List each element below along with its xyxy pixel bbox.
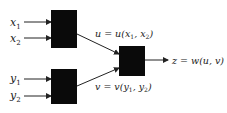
- box-u: [51, 10, 77, 48]
- composite-function-diagram: x1 x2 y1 y2 u = u(x1, x2) v = v(y1, y2) …: [0, 0, 227, 113]
- box-v: [51, 69, 77, 104]
- label-u: u = u(x1, x2): [95, 28, 153, 40]
- input-label-x1: x1: [10, 16, 21, 31]
- input-label-y1: y1: [9, 72, 21, 87]
- input-label-x2: x2: [10, 32, 21, 47]
- box-w: [119, 46, 145, 76]
- label-output: z = w(u, v): [171, 55, 224, 66]
- input-label-y2: y2: [9, 89, 21, 104]
- label-v: v = v(y1, y2): [95, 81, 152, 93]
